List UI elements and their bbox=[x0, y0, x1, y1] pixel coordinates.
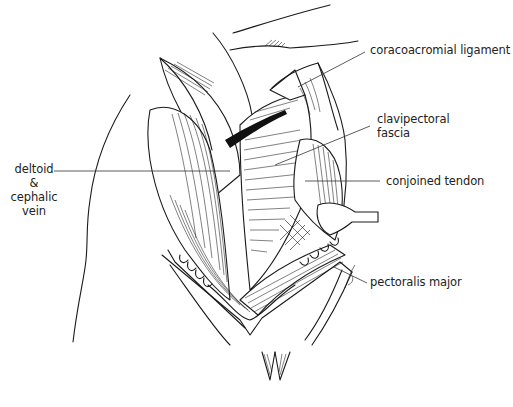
anatomical-illustration: coracoacromial ligament clavipectoral fa… bbox=[0, 0, 513, 407]
label-ampersand: & bbox=[8, 177, 60, 190]
label-fascia: fascia bbox=[377, 127, 410, 140]
leader-coracoacromial bbox=[298, 52, 365, 87]
right-retractor bbox=[317, 203, 378, 235]
label-clavipectoral: clavipectoral bbox=[377, 113, 449, 126]
label-coracoacromial-ligament: coracoacromial ligament bbox=[370, 44, 510, 57]
shoulder-exposure-drawing bbox=[0, 0, 513, 407]
arm-contour bbox=[73, 95, 130, 342]
label-cephalic: cephalic bbox=[8, 191, 60, 204]
top-skin-line bbox=[233, 5, 330, 33]
inferior-skin-v bbox=[262, 352, 290, 380]
top-skin-line-2 bbox=[230, 41, 358, 50]
leader-pectoralis bbox=[334, 267, 367, 283]
retractor-edge bbox=[213, 33, 252, 115]
label-conjoined-tendon: conjoined tendon bbox=[386, 175, 484, 188]
label-pectoralis-major: pectoralis major bbox=[370, 276, 462, 289]
label-vein: vein bbox=[8, 205, 60, 218]
label-deltoid: deltoid bbox=[8, 163, 60, 176]
